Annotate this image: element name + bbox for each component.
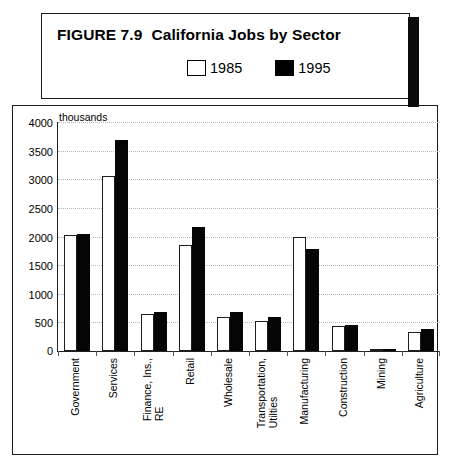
bar-1995[interactable]	[154, 312, 167, 351]
bar-1995[interactable]	[383, 349, 396, 351]
y-axis-tick-label: 1000	[29, 289, 53, 301]
bar-1985[interactable]	[64, 235, 77, 351]
x-axis-category-labels: GovernmentServicesFinance, Ins., RERetai…	[57, 356, 439, 452]
bar-1995[interactable]	[345, 325, 358, 351]
bar-1985[interactable]	[332, 326, 345, 351]
bar-group	[211, 122, 249, 351]
x-axis-category-label: Agriculture	[414, 358, 426, 408]
bar-1985[interactable]	[179, 245, 192, 351]
bar-series-container	[58, 122, 440, 351]
category-label-cell: Agriculture	[401, 356, 439, 452]
y-axis-tick-label: 2500	[29, 203, 53, 215]
bar-group	[402, 122, 440, 351]
x-axis-category-label: Mining	[376, 358, 388, 389]
white-square-icon	[187, 60, 206, 76]
x-axis-tick	[439, 351, 440, 356]
bar-1985[interactable]	[293, 237, 306, 352]
bar-1995[interactable]	[77, 234, 90, 351]
bar-group	[364, 122, 402, 351]
bar-group	[96, 122, 134, 351]
legend-item-1995: 1995	[275, 60, 330, 76]
plot-area: 40003500300025002000150010005000	[57, 122, 440, 352]
category-label-cell: Government	[57, 356, 95, 452]
x-axis-category-label: Construction	[338, 358, 350, 417]
figure-title-panel: FIGURE 7.9California Jobs by Sector 1985…	[41, 13, 410, 99]
y-axis-tick-label: 0	[47, 345, 53, 357]
category-label-cell: Services	[95, 356, 133, 452]
category-label-cell: Transportation, Utilties	[248, 356, 286, 452]
bar-1985[interactable]	[370, 349, 383, 351]
x-axis-category-label: Services	[109, 358, 121, 398]
chart-panel: thousands 400035003000250020001500100050…	[12, 105, 438, 455]
bar-1995[interactable]	[306, 249, 319, 351]
y-axis-tick-label: 3000	[29, 174, 53, 186]
bar-1985[interactable]	[141, 314, 154, 351]
bar-1995[interactable]	[421, 329, 434, 351]
bar-1985[interactable]	[217, 317, 230, 351]
legend-item-1985: 1985	[187, 60, 242, 76]
bar-group	[287, 122, 325, 351]
chart-legend: 1985 1995	[187, 60, 331, 76]
x-axis-category-label: Finance, Ins., RE	[141, 358, 164, 421]
x-axis-category-label: Manufacturing	[300, 358, 312, 425]
bar-1985[interactable]	[102, 176, 115, 351]
figure-caption: California Jobs by Sector	[151, 26, 340, 43]
y-axis-tick-label: 1500	[29, 260, 53, 272]
y-axis-tick-label: 4000	[29, 117, 53, 129]
bar-1995[interactable]	[115, 140, 128, 351]
y-axis-tick-label: 2000	[29, 232, 53, 244]
legend-label-1985: 1985	[210, 60, 242, 76]
x-axis-category-label: Transportation, Utilties	[256, 358, 279, 428]
bar-group	[173, 122, 211, 351]
bar-1995[interactable]	[192, 227, 205, 351]
category-label-cell: Retail	[172, 356, 210, 452]
figure-number: FIGURE 7.9	[57, 26, 142, 43]
scan-artifact-mark	[408, 17, 419, 107]
category-label-cell: Manufacturing	[286, 356, 324, 452]
category-label-cell: Construction	[324, 356, 362, 452]
bar-group	[134, 122, 172, 351]
y-axis-tick-label: 500	[35, 317, 53, 329]
y-axis-tick-label: 3500	[29, 146, 53, 158]
bar-1985[interactable]	[408, 332, 421, 351]
black-square-icon	[275, 60, 294, 76]
category-label-cell: Mining	[363, 356, 401, 452]
category-label-cell: Finance, Ins., RE	[133, 356, 171, 452]
bar-group	[58, 122, 96, 351]
x-axis-category-label: Retail	[185, 358, 197, 385]
x-axis-category-label: Wholesale	[223, 358, 235, 407]
legend-label-1995: 1995	[298, 60, 330, 76]
bar-1995[interactable]	[230, 312, 243, 351]
page-title: FIGURE 7.9California Jobs by Sector	[57, 26, 341, 44]
bar-1995[interactable]	[268, 317, 281, 351]
category-label-cell: Wholesale	[210, 356, 248, 452]
bar-group	[249, 122, 287, 351]
x-axis-category-label: Government	[70, 358, 82, 416]
bar-1985[interactable]	[255, 321, 268, 351]
bar-group	[325, 122, 363, 351]
